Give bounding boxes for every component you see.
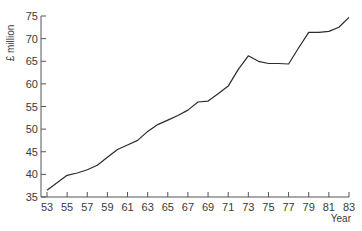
y-tick-label: 60 <box>26 78 38 90</box>
series-line <box>47 17 349 190</box>
x-tick-label: 61 <box>121 201 133 213</box>
x-tick-label: 81 <box>323 201 335 213</box>
x-tick-label: 57 <box>81 201 93 213</box>
y-tick-label: 45 <box>26 146 38 158</box>
y-tick-label: 75 <box>26 10 38 22</box>
y-tick-label: 55 <box>26 101 38 113</box>
y-tick-label: 40 <box>26 168 38 180</box>
x-tick-label: 75 <box>262 201 274 213</box>
x-tick-label: 63 <box>142 201 154 213</box>
x-ticks: 53555759616365676971737577798183 <box>41 192 355 213</box>
x-tick-label: 77 <box>282 201 294 213</box>
x-axis-label: Year <box>331 213 352 224</box>
x-tick-label: 65 <box>162 201 174 213</box>
x-tick-label: 79 <box>303 201 315 213</box>
x-tick-label: 73 <box>242 201 254 213</box>
x-tick-label: 55 <box>61 201 73 213</box>
y-tick-label: 35 <box>26 191 38 203</box>
x-tick-label: 59 <box>101 201 113 213</box>
y-axis-label: £ million <box>5 25 16 62</box>
x-tick-label: 53 <box>41 201 53 213</box>
y-tick-label: 50 <box>26 123 38 135</box>
y-tick-label: 65 <box>26 55 38 67</box>
x-tick-label: 69 <box>202 201 214 213</box>
x-tick-label: 67 <box>182 201 194 213</box>
x-tick-label: 71 <box>222 201 234 213</box>
y-tick-label: 70 <box>26 33 38 45</box>
y-ticks: 354045505560657075 <box>26 10 46 203</box>
line-chart: 354045505560657075 535557596163656769717… <box>0 0 362 231</box>
x-tick-label: 83 <box>343 201 355 213</box>
